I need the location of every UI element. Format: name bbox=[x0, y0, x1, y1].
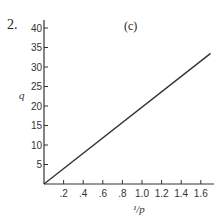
x-tick-label: 1.6 bbox=[194, 188, 208, 199]
y-ticks: 510152025303540 bbox=[31, 23, 48, 171]
y-tick-label: 15 bbox=[31, 120, 43, 131]
x-tick-label: 1.4 bbox=[174, 188, 188, 199]
x-tick-label: .6 bbox=[99, 188, 108, 199]
x-tick-label: .2 bbox=[59, 188, 68, 199]
x-axis-label: ¹/p bbox=[133, 203, 145, 215]
y-tick-label: 25 bbox=[31, 81, 43, 92]
x-tick-label: .8 bbox=[118, 188, 127, 199]
y-tick-label: 35 bbox=[31, 42, 43, 53]
y-tick-label: 20 bbox=[31, 101, 43, 112]
x-tick-label: 1.2 bbox=[155, 188, 169, 199]
y-axis-label: q bbox=[19, 89, 25, 101]
x-tick-label: 1.0 bbox=[135, 188, 149, 199]
y-tick-label: 10 bbox=[31, 140, 43, 151]
x-ticks: .2.4.6.81.01.21.41.6 bbox=[59, 180, 208, 199]
y-tick-label: 5 bbox=[36, 159, 42, 170]
data-line bbox=[44, 53, 211, 184]
y-tick-label: 40 bbox=[31, 23, 43, 34]
y-tick-label: 30 bbox=[31, 62, 43, 73]
chart-axes bbox=[44, 20, 214, 184]
line-chart: 510152025303540 .2.4.6.81.01.21.41.6 q ¹… bbox=[0, 0, 224, 219]
x-tick-label: .4 bbox=[79, 188, 88, 199]
